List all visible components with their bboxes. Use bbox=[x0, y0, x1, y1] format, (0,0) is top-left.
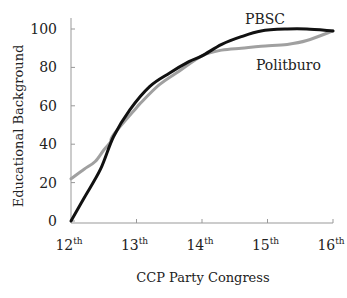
series-label-politburo: Politburo bbox=[256, 57, 321, 73]
y-axis-title: Educational Background bbox=[11, 45, 26, 208]
y-tick-label: 60 bbox=[39, 98, 57, 114]
y-tick-label: 80 bbox=[39, 59, 57, 75]
x-axis: 12th13th14th15th16th bbox=[55, 219, 344, 253]
y-axis: 020406080100 bbox=[30, 18, 75, 229]
y-tick-label: 20 bbox=[39, 175, 57, 191]
y-tick-label: 0 bbox=[48, 213, 57, 229]
x-tick-label: 13th bbox=[121, 236, 148, 253]
y-tick-label: 100 bbox=[30, 21, 57, 37]
x-tick-label: 12th bbox=[55, 236, 82, 253]
y-tick-label: 40 bbox=[39, 136, 57, 152]
series-label-pbsc: PBSC bbox=[245, 11, 285, 27]
x-axis-title: CCP Party Congress bbox=[136, 270, 269, 285]
x-tick-label: 15th bbox=[252, 236, 279, 253]
x-tick-label: 14th bbox=[186, 236, 213, 253]
series-labels: PBSCPolitburo bbox=[245, 11, 321, 73]
series-line-politburo bbox=[71, 31, 333, 179]
x-tick-label: 16th bbox=[317, 236, 344, 253]
line-chart: 020406080100 12th13th14th15th16th PBSCPo… bbox=[0, 0, 347, 298]
